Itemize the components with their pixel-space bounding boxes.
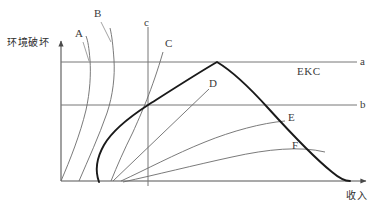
curve-label-A: A xyxy=(75,28,83,39)
curve-D xyxy=(113,89,209,181)
curve-label-C: C xyxy=(165,38,172,49)
reference-line-label-b: b xyxy=(360,99,366,110)
line-label-c: c xyxy=(144,17,149,28)
curve-label-E: E xyxy=(288,112,295,123)
y-axis-label: 环境破坏 xyxy=(7,38,49,48)
curve-label-B: B xyxy=(94,8,101,19)
curve-label-D: D xyxy=(209,78,217,89)
curve-E xyxy=(121,121,285,181)
curve-label-EKC: EKC xyxy=(297,66,321,77)
ekc-diagram: 环境破坏 收入 A B c C D E F a b EKC xyxy=(0,0,391,209)
leader-line-B xyxy=(101,22,111,42)
curve-C xyxy=(111,52,163,181)
curve-A xyxy=(61,36,90,181)
diagram-canvas xyxy=(0,0,391,209)
curve-label-F: F xyxy=(292,140,298,151)
x-axis-label: 收入 xyxy=(346,191,367,201)
curve-EKC xyxy=(97,62,350,182)
reference-line-label-a: a xyxy=(360,56,365,67)
